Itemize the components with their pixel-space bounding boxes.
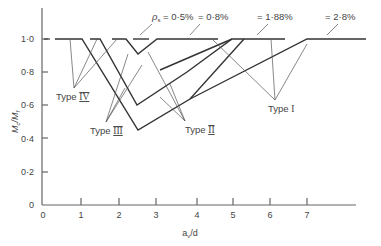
- x-tick-labels: 0 1 2 3 4 5 6 7: [40, 210, 309, 220]
- x-tick-1: 1: [78, 210, 83, 220]
- x-tick-2: 2: [116, 210, 121, 220]
- chart-svg: 0 0·2 0·4 0·6 0·8 1·0 0 1 2 3 4 5 6 7 av…: [0, 0, 381, 246]
- y-axis-title: Mc/Mf: [10, 110, 21, 134]
- label-rho-0-5: ρs = 0·5%: [151, 11, 194, 23]
- curves: [55, 39, 366, 130]
- curve-rho-0-5: [55, 39, 244, 130]
- y-tick-0-8: 0·8: [21, 67, 34, 77]
- label-rho-1-88: = 1·88%: [257, 11, 293, 22]
- x-tick-0: 0: [40, 210, 45, 220]
- x-tick-6: 6: [267, 210, 272, 220]
- x-axis-title: av/d: [182, 228, 198, 239]
- svg-text:Mc/Mf: Mc/Mf: [10, 110, 21, 134]
- label-type-iv: Type IV: [56, 91, 89, 102]
- label-type-iii: Type III: [90, 125, 123, 136]
- y-tick-0: 0: [29, 200, 34, 210]
- label-rho-0-8: = 0·8%: [198, 11, 229, 22]
- x-tick-5: 5: [230, 210, 235, 220]
- y-tick-labels: 0 0·2 0·4 0·6 0·8 1·0: [21, 34, 34, 210]
- x-tick-4: 4: [194, 210, 199, 220]
- x-tick-3: 3: [153, 210, 158, 220]
- y-tick-0-2: 0·2: [21, 167, 34, 177]
- label-rho-2-8: = 2·8%: [325, 11, 356, 22]
- label-type-i: Type I: [268, 103, 294, 114]
- label-type-ii: Type II: [185, 124, 215, 135]
- y-tick-0-4: 0·4: [21, 134, 34, 144]
- curve-rho-0-8: [90, 39, 285, 105]
- axes: [42, 8, 356, 205]
- y-tick-0-6: 0·6: [21, 100, 34, 110]
- x-tick-7: 7: [304, 210, 309, 220]
- y-tick-1-0: 1·0: [21, 34, 34, 44]
